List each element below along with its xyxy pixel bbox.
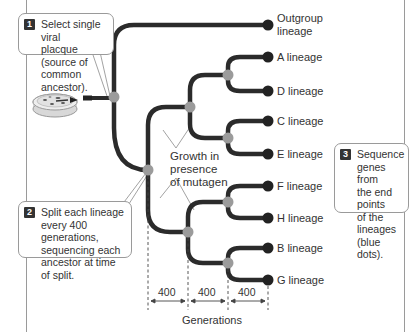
step1-callout: 1 Select single viral placque (source of… (18, 13, 114, 55)
callout-pointers (92, 52, 194, 218)
generation-interval-3: 400 (238, 286, 256, 298)
lineage-label-f: F lineage (277, 180, 322, 193)
lineage-label-h: H lineage (277, 212, 323, 225)
lineage-label-g: G lineage (277, 274, 324, 287)
step3-callout: 3 Sequence genes from the end points of … (334, 143, 409, 213)
endpoint-dots (263, 20, 274, 286)
step1-badge: 1 (24, 19, 35, 30)
petri-dish-icon (33, 94, 110, 117)
lineage-label-d: D lineage (277, 85, 323, 98)
lineage-label-c: C lineage (277, 115, 323, 128)
generation-arrows (151, 299, 265, 303)
step2-badge: 2 (24, 207, 35, 218)
lineage-label-outgroup: Outgroup lineage (277, 12, 323, 38)
step3-text: Sequence genes from the end points of th… (357, 148, 402, 261)
generation-interval-2: 400 (198, 286, 216, 298)
step3-badge: 3 (340, 149, 351, 160)
lineage-label-e: E lineage (277, 148, 323, 161)
generation-interval-1: 400 (158, 286, 176, 298)
root-node (109, 92, 120, 103)
step1-text: Select single viral placque (source of c… (41, 18, 107, 93)
lineage-label-a: A lineage (277, 51, 322, 64)
mutagen-label: Growth in presence of mutagen (170, 150, 228, 189)
generations-axis-title: Generations (182, 314, 242, 326)
lineage-label-b: B lineage (277, 242, 323, 255)
step2-text: Split each lineage every 400 generations… (41, 206, 125, 281)
step2-callout: 2 Split each lineage every 400 generatio… (18, 201, 132, 258)
